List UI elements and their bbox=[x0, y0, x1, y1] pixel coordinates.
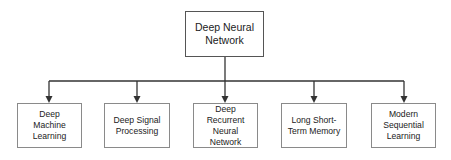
child-node-deep-machine-learning: DeepMachineLearning bbox=[17, 103, 82, 148]
child-node-deep-recurrent-neural-network: DeepRecurrentNeural Network bbox=[193, 103, 258, 148]
arrowhead-icon bbox=[46, 96, 53, 103]
child-node-label: DeepMachineLearning bbox=[33, 109, 66, 142]
child-node-label: DeepRecurrentNeural Network bbox=[196, 104, 255, 148]
root-node: Deep NeuralNetwork bbox=[185, 11, 264, 57]
root-node-label: Deep NeuralNetwork bbox=[195, 21, 254, 47]
arrowhead-icon bbox=[311, 96, 318, 103]
arrowhead-icon bbox=[134, 96, 141, 103]
arrowhead-icon bbox=[222, 96, 229, 103]
child-node-label: Long Short-Term Memory bbox=[288, 115, 341, 137]
arrowhead-icon bbox=[401, 96, 408, 103]
child-node-label: Deep SignalProcessing bbox=[114, 115, 161, 137]
child-node-modern-sequential-learning: ModernSequentialLearning bbox=[371, 103, 436, 148]
child-node-label: ModernSequentialLearning bbox=[383, 109, 424, 142]
child-node-long-short-term-memory: Long Short-Term Memory bbox=[281, 103, 347, 148]
child-node-deep-signal-processing: Deep SignalProcessing bbox=[104, 103, 170, 148]
